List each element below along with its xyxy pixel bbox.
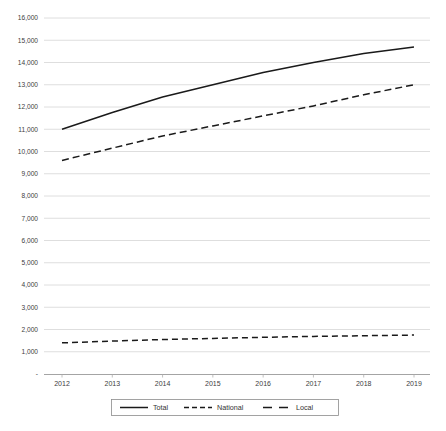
y-tick-label-4000: 4,000	[21, 281, 38, 288]
series-line-local	[62, 335, 414, 343]
y-tick-label-13000: 13,000	[18, 81, 39, 88]
chart-caption-clipped	[0, 424, 446, 431]
y-tick-label-10000: 10,000	[18, 148, 39, 155]
y-tick-label-11000: 11,000	[18, 126, 38, 133]
legend-label-national: National	[217, 403, 244, 412]
y-tick-label-0: -	[36, 370, 38, 377]
y-tick-label-7000: 7,000	[21, 215, 38, 222]
chart-canvas: -1,0002,0003,0004,0005,0006,0007,0008,00…	[0, 0, 446, 431]
chart-legend[interactable]: Total National Local	[112, 400, 339, 416]
gridlines	[44, 18, 430, 352]
x-tick-label-2019: 2019	[406, 380, 422, 387]
y-axis-tick-labels: -1,0002,0003,0004,0005,0006,0007,0008,00…	[18, 14, 39, 377]
x-tick-label-2015: 2015	[205, 380, 221, 387]
legend-label-local: Local	[296, 403, 314, 412]
y-tick-label-5000: 5,000	[21, 259, 38, 266]
y-tick-label-2000: 2,000	[21, 326, 38, 333]
y-tick-label-1000: 1,000	[21, 348, 38, 355]
line-chart: -1,0002,0003,0004,0005,0006,0007,0008,00…	[0, 0, 446, 431]
x-tick-label-2012: 2012	[54, 380, 70, 387]
x-tick-label-2014: 2014	[155, 380, 171, 387]
x-tick-label-2016: 2016	[255, 380, 271, 387]
y-tick-label-8000: 8,000	[21, 192, 38, 199]
y-tick-label-15000: 15,000	[18, 37, 39, 44]
y-tick-label-14000: 14,000	[18, 59, 39, 66]
y-tick-label-3000: 3,000	[21, 304, 38, 311]
y-tick-label-9000: 9,000	[21, 170, 38, 177]
y-tick-label-6000: 6,000	[21, 237, 38, 244]
x-tick-label-2017: 2017	[306, 380, 322, 387]
legend-label-total: Total	[153, 403, 169, 412]
x-tick-label-2018: 2018	[356, 380, 372, 387]
x-axis-tick-labels: 20122013201420152016201720182019	[54, 375, 422, 388]
x-tick-label-2013: 2013	[104, 380, 120, 387]
y-tick-label-16000: 16,000	[18, 14, 39, 21]
y-tick-label-12000: 12,000	[18, 103, 39, 110]
series-line-total	[62, 47, 414, 129]
series-line-national	[62, 85, 414, 161]
